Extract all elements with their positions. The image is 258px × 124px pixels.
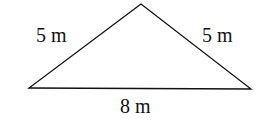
triangle-outline	[29, 4, 251, 89]
right-side-label: 5 m	[202, 25, 233, 45]
base-label: 8 m	[120, 96, 151, 116]
left-side-label: 5 m	[36, 25, 67, 45]
triangle-diagram: 5 m 5 m 8 m	[0, 0, 258, 124]
